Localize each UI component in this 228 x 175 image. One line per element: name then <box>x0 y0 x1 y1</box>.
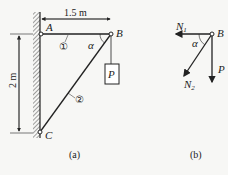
caption-a: (a) <box>69 149 80 161</box>
wall-hatch <box>33 12 40 138</box>
caption-b: (b) <box>190 149 202 161</box>
pin-a <box>39 32 43 36</box>
load-label: P <box>107 68 115 80</box>
angle-label: α <box>88 39 94 51</box>
figure-b: α B N1 N2 P (b) <box>175 20 225 161</box>
label-b-fbd: B <box>217 27 224 39</box>
angle-arc <box>100 34 105 43</box>
pin-b-fbd <box>210 32 214 36</box>
force-n1-label: N1 <box>175 20 187 34</box>
pin-b <box>109 32 113 36</box>
figure-a: 1.5 m 2 m A B C ① ② α P (a) <box>7 7 123 161</box>
label-a: A <box>45 21 53 33</box>
force-p-label: P <box>217 63 225 75</box>
force-n2 <box>184 34 212 76</box>
label-c: C <box>45 129 53 141</box>
member-2 <box>40 34 111 132</box>
statics-diagram: 1.5 m 2 m A B C ① ② α P (a) <box>0 0 228 175</box>
dim-vertical-label: 2 m <box>7 73 18 89</box>
angle-label-fbd: α <box>192 37 198 49</box>
member-1-label: ① <box>59 41 68 52</box>
pin-c <box>38 130 42 134</box>
member-2-label: ② <box>75 94 84 105</box>
force-n2-label: N2 <box>183 78 195 92</box>
label-b: B <box>116 27 123 39</box>
angle-arc-fbd <box>199 34 205 45</box>
dim-horizontal-label: 1.5 m <box>64 7 87 18</box>
